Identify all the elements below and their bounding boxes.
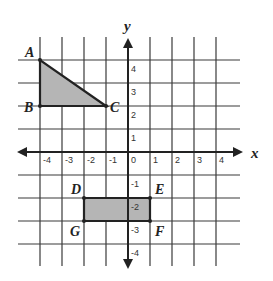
point-label-f: F xyxy=(154,224,165,239)
svg-text:-1: -1 xyxy=(131,179,139,189)
svg-text:-2: -2 xyxy=(87,155,95,165)
svg-text:0: 0 xyxy=(131,155,136,165)
svg-text:-4: -4 xyxy=(131,248,139,258)
svg-text:-4: -4 xyxy=(43,155,51,165)
point-label-c: C xyxy=(110,100,120,115)
svg-text:3: 3 xyxy=(131,87,136,97)
svg-text:-3: -3 xyxy=(131,225,139,235)
y-axis-down-arrow-icon xyxy=(123,259,133,269)
svg-text:-1: -1 xyxy=(109,155,117,165)
point-label-d: D xyxy=(70,182,81,197)
y-axis-label: y xyxy=(122,18,131,34)
rectangle-defg xyxy=(84,198,150,221)
x-axis-label: x xyxy=(250,145,259,161)
point-label-e: E xyxy=(154,182,164,197)
coordinate-plane: x y -4 -3 -2 -1 0 1 2 3 4 4 3 2 1 -1 -2 … xyxy=(0,0,273,281)
point-label-g: G xyxy=(70,224,80,239)
svg-text:4: 4 xyxy=(219,155,224,165)
svg-text:-2: -2 xyxy=(131,202,139,212)
x-axis-left-arrow-icon xyxy=(17,147,27,157)
svg-text:1: 1 xyxy=(131,133,136,143)
svg-text:2: 2 xyxy=(175,155,180,165)
y-axis-up-arrow-icon xyxy=(123,38,133,48)
coordinate-grid-svg: x y -4 -3 -2 -1 0 1 2 3 4 4 3 2 1 -1 -2 … xyxy=(0,0,273,281)
point-label-a: A xyxy=(24,45,34,60)
svg-text:1: 1 xyxy=(153,155,158,165)
x-tick-labels: -4 -3 -2 -1 0 1 2 3 4 xyxy=(43,155,224,165)
point-label-b: B xyxy=(23,100,33,115)
svg-text:2: 2 xyxy=(131,110,136,120)
x-axis-right-arrow-icon xyxy=(233,147,243,157)
svg-text:-3: -3 xyxy=(65,155,73,165)
svg-text:4: 4 xyxy=(131,64,136,74)
svg-text:3: 3 xyxy=(197,155,202,165)
